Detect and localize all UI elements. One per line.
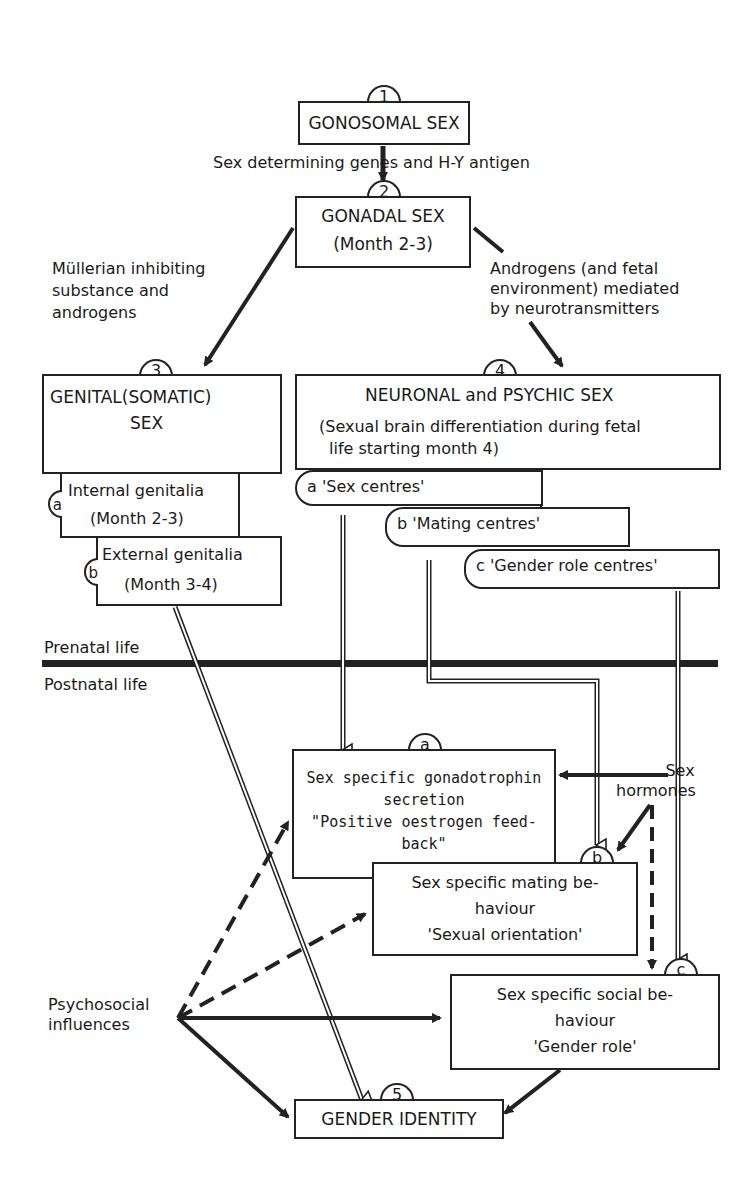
arrow-2-to-4 [530, 322, 562, 366]
postnatal-life-label: Postnatal life [44, 674, 147, 696]
arrow-c-to-identity [505, 1070, 560, 1113]
external-genitalia-month: (Month 3-4) [124, 574, 218, 596]
node-a-line3: "Positive oestrogen feed- [294, 811, 554, 833]
node-mating-behaviour: Sex specific mating be- haviour 'Sexual … [372, 862, 638, 956]
label-hormones: hormones [616, 780, 696, 802]
node-4-title: NEURONAL and PSYCHIC SEX [365, 384, 613, 406]
sex-centres: a 'Sex centres' [295, 470, 543, 506]
label-sex: Sex [655, 760, 705, 782]
node-5-title: GENDER IDENTITY [296, 1101, 502, 1137]
node-2-title: GONADAL SEX [297, 206, 469, 226]
label-androgens-1: Androgens (and fetal [490, 258, 658, 280]
node-4-line2: life starting month 4) [329, 438, 499, 460]
label-androgens-2: environment) mediated [490, 278, 679, 300]
node-neuronal-psychic-sex: NEURONAL and PSYCHIC SEX (Sexual brain d… [295, 374, 721, 470]
arrow-hormones-to-b [618, 805, 650, 850]
node-b-line3: 'Sexual orientation' [374, 922, 636, 948]
node-1-title: GONOSOMAL SEX [300, 103, 468, 143]
internal-genitalia-month: (Month 2-3) [90, 508, 184, 530]
node-2-subtitle: (Month 2-3) [297, 234, 469, 254]
node-a-line2: secretion [294, 789, 554, 811]
node-c-line2: haviour [452, 1008, 718, 1034]
label-mullerian-1: Müllerian inhibiting [52, 258, 206, 280]
node-external-genitalia: External genitalia (Month 3-4) [96, 536, 282, 606]
prenatal-divider [42, 660, 718, 667]
prenatal-life-label: Prenatal life [44, 637, 139, 659]
node-social-behaviour: Sex specific social be- haviour 'Gender … [450, 974, 720, 1070]
gender-role-centres: c 'Gender role centres' [464, 549, 720, 589]
label-androgens-3: by neurotransmitters [490, 298, 659, 320]
arrow-psychosocial-to-identity [178, 1018, 288, 1117]
node-a-line1: Sex specific gonadotrophin [294, 767, 554, 789]
label-psychosocial-1: Psychosocial [48, 994, 150, 1016]
external-genitalia-label: External genitalia [102, 544, 243, 566]
node-gonadotrophin-secretion: Sex specific gonadotrophin secretion "Po… [292, 749, 556, 879]
node-3-title: GENITAL(SOMATIC) [50, 386, 212, 408]
node-genital-sex: GENITAL(SOMATIC) SEX [42, 374, 282, 474]
node-internal-genitalia: Internal genitalia (Month 2-3) [60, 472, 240, 538]
node-b-line2: haviour [374, 896, 636, 922]
node-b-line1: Sex specific mating be- [374, 870, 636, 896]
node-3-title2: SEX [130, 412, 163, 434]
node-c-line1: Sex specific social be- [452, 982, 718, 1008]
node-c-line3: 'Gender role' [452, 1034, 718, 1060]
node-gender-identity: GENDER IDENTITY [294, 1099, 504, 1139]
label-genes: Sex determining genes and H-Y antigen [213, 152, 530, 174]
label-mullerian-2: substance and [52, 280, 169, 302]
arrow-2-to-3 [205, 228, 293, 365]
mating-centres: b 'Mating centres' [385, 507, 630, 547]
label-mullerian-3: androgens [52, 302, 137, 324]
label-psychosocial-2: influences [48, 1014, 130, 1036]
node-4-line1: (Sexual brain differentiation during fet… [319, 416, 641, 438]
internal-genitalia-label: Internal genitalia [68, 480, 204, 502]
node-gonosomal-sex: GONOSOMAL SEX [298, 101, 470, 145]
node-a-line4: back" [294, 833, 554, 855]
node-gonadal-sex: GONADAL SEX (Month 2-3) [295, 196, 471, 268]
